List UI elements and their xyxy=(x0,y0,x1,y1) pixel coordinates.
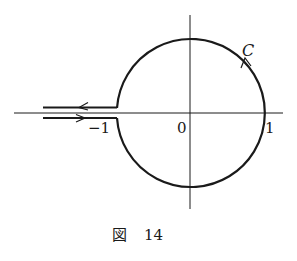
left-arrow-icon xyxy=(79,103,88,111)
origin-label: 0 xyxy=(177,119,187,137)
caption-number: 14 xyxy=(144,226,163,244)
contour-label: C xyxy=(242,41,254,60)
one-label: 1 xyxy=(265,119,275,137)
contour-diagram: C 0 1 −1 図 14 xyxy=(0,0,297,261)
caption-prefix: 図 xyxy=(112,226,127,244)
minus-one-label: −1 xyxy=(88,119,110,137)
